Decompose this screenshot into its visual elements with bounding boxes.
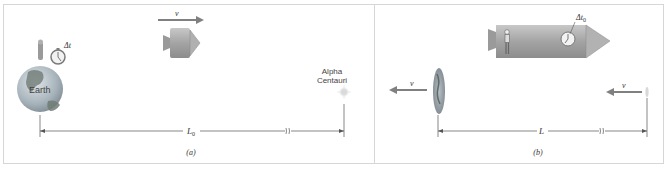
velocity-label-a: v (175, 9, 179, 18)
earth-label: Earth (29, 85, 51, 95)
velocity-label-b-left: v (410, 79, 414, 88)
distance-label-b: L (538, 126, 544, 136)
velocity-arrow-b-left (389, 86, 427, 94)
earth-clock-icon (51, 48, 65, 64)
contracted-earth-icon (433, 68, 445, 114)
earth-clock-label: Δt (63, 41, 72, 50)
alpha-centauri-star-icon (337, 85, 351, 99)
caption-b: (b) (533, 148, 543, 157)
star-label-line1: Alpha (322, 67, 343, 76)
diagram-canvas: Δt Earth v Alpha Centauri L0 (a) (0, 0, 666, 170)
earth-astronaut-icon (38, 40, 43, 61)
velocity-arrow-a (158, 16, 204, 24)
spaceship-a-icon (163, 28, 200, 58)
velocity-label-b-right: v (622, 81, 626, 90)
caption-a: (a) (186, 148, 196, 157)
distance-label-a: L0 (186, 126, 195, 137)
star-label-line2: Centauri (317, 76, 347, 85)
ship-clock-label: Δt0 (575, 13, 586, 23)
contracted-star-icon (645, 87, 648, 97)
